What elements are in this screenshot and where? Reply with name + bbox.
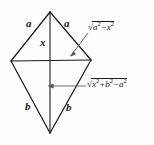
- radical-top-exp2: 2: [111, 20, 114, 27]
- radical-bottom-exp3: 2: [124, 77, 127, 84]
- label-segment-x: x: [40, 37, 46, 48]
- label-side-b-right: b: [66, 102, 72, 113]
- edge-top-right: [50, 12, 91, 60]
- diagram-canvas: [0, 0, 154, 145]
- label-side-a-right: a: [64, 18, 70, 29]
- label-side-b-left: b: [25, 101, 31, 112]
- label-radical-top: √a2−x2: [88, 23, 114, 32]
- label-radical-bottom: √x2+b2−a2: [87, 80, 127, 89]
- leader-arrowhead-top: [71, 52, 76, 56]
- edge-bottom-right: [50, 60, 91, 133]
- horizontal-diagonal: [11, 60, 91, 61]
- leader-line-top: [73, 33, 89, 54]
- edge-bottom-left: [11, 61, 50, 133]
- kite-geometry-diagram: a a x b b √a2−x2 √x2+b2−a2: [0, 0, 154, 145]
- label-side-a-left: a: [26, 18, 32, 29]
- leader-arrowhead-bottom: [49, 84, 54, 88]
